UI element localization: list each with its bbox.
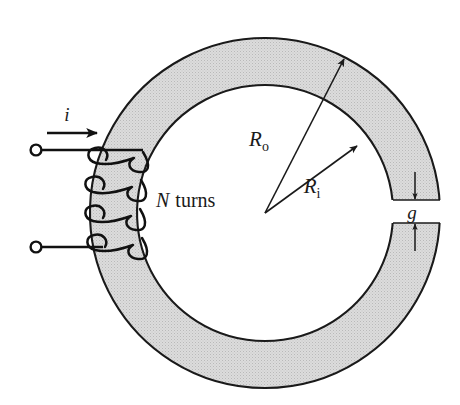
terminal-bottom[interactable]	[31, 242, 42, 253]
gap-label: g	[407, 202, 417, 223]
outer-radius-label: Ro	[248, 127, 269, 154]
current-label: i	[64, 104, 69, 125]
terminal-top[interactable]	[31, 145, 42, 156]
current-indicator: i	[47, 104, 97, 133]
turns-label: Nturns	[155, 189, 216, 211]
toroid-core-diagram: g Ro Ri i Nturns	[0, 0, 460, 405]
inner-radius-label: Ri	[303, 174, 321, 201]
